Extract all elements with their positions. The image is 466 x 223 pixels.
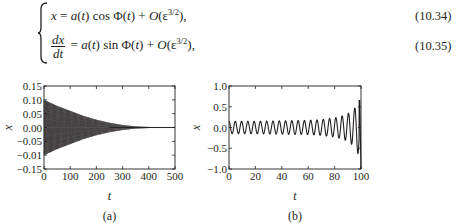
fraction-denominator: dt <box>51 47 65 60</box>
x-tick-label: 100 <box>62 170 79 182</box>
x-axis-label: t <box>108 189 112 203</box>
eq-term: ) sin Φ( <box>96 37 136 52</box>
x-tick-label: 80 <box>329 170 341 182</box>
x-tick-label: 60 <box>303 170 315 182</box>
y-tick-label: −0.01 <box>17 149 42 161</box>
equation-system: x = a(t) cos Φ(t) + O(ε3/2), (10.34) dx … <box>38 2 466 64</box>
eq-term: ) cos Φ( <box>85 8 127 23</box>
y-axis-label: x <box>1 124 15 131</box>
x-tick-label: 400 <box>141 170 158 182</box>
fraction-numerator: dx <box>51 33 65 47</box>
eq-term: (ε <box>158 8 168 23</box>
equation-10-34: x = a(t) cos Φ(t) + O(ε3/2), <box>51 7 187 24</box>
y-tick-label: 0.00 <box>23 122 43 134</box>
panel-caption: (a) <box>103 209 116 223</box>
eq-term: O <box>157 37 166 52</box>
eq-term: ), <box>187 37 195 52</box>
eq-term: ) + <box>139 37 157 52</box>
y-tick-label: 0.15 <box>23 80 43 92</box>
x-tick-label: 200 <box>88 170 105 182</box>
eq-term: ), <box>179 8 187 23</box>
eq-exponent: 3/2 <box>176 36 187 46</box>
eq-term: O <box>149 8 158 23</box>
eq-term: ) + <box>131 8 149 23</box>
left-brace <box>38 2 48 64</box>
panel-caption: (b) <box>288 209 302 223</box>
equation-number-10-35: (10.35) <box>415 39 451 54</box>
x-tick-label: 500 <box>167 170 184 182</box>
equation-number-10-34: (10.34) <box>415 9 451 24</box>
x-tick-label: 0 <box>226 170 232 182</box>
fraction-dx-dt: dx dt <box>51 33 65 60</box>
y-tick-label: −0.5 <box>207 142 227 154</box>
eq-term: (ε <box>167 37 177 52</box>
plot-b-growing-oscillation: 0204060801001.00.50.0−0.5−1.0tx(b) <box>190 78 390 223</box>
y-axis-label: x <box>190 124 203 131</box>
x-tick-label: 40 <box>276 170 288 182</box>
eq-lhs: x <box>51 8 57 23</box>
y-tick-label: 0.10 <box>23 94 43 106</box>
equation-10-35: dx dt = a(t) sin Φ(t) + O(ε3/2), <box>51 33 195 60</box>
y-tick-label: 0.5 <box>213 101 227 113</box>
y-tick-label: 0.0 <box>213 122 227 134</box>
y-tick-label: 1.0 <box>213 80 227 92</box>
x-axis-label: t <box>293 189 297 203</box>
x-tick-label: 0 <box>41 170 47 182</box>
y-tick-label: 0.05 <box>23 108 43 120</box>
x-tick-label: 300 <box>114 170 131 182</box>
x-tick-label: 100 <box>353 170 370 182</box>
eq-exponent: 3/2 <box>168 7 179 17</box>
y-tick-label: −0.05 <box>17 135 43 147</box>
data-series-line <box>229 101 361 169</box>
x-tick-label: 20 <box>250 170 262 182</box>
y-tick-label: −1.0 <box>207 163 227 175</box>
plot-a-decaying-oscillation: 01002003004005000.150.100.050.00−0.05−0.… <box>0 78 200 223</box>
plot-frame <box>229 86 361 169</box>
y-tick-label: −0.15 <box>17 163 43 175</box>
